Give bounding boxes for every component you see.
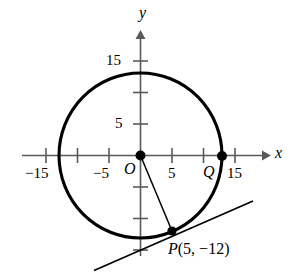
x-tick-label-neg15: −15 xyxy=(25,166,48,181)
y-tick-label-5: 5 xyxy=(115,116,123,131)
x-tick-label-neg5: −5 xyxy=(93,166,109,181)
point-label-Q: Q xyxy=(203,164,215,180)
y-axis-label: y xyxy=(139,5,146,21)
point-label-P: P(5, −12) xyxy=(168,241,229,257)
point-label-P-coords: (5, −12) xyxy=(178,240,230,257)
figure-canvas: x y 15 5 −15 −5 5 15 O Q P(5, −12) xyxy=(0,0,297,279)
point-dot-P xyxy=(167,226,176,235)
figure-graphic xyxy=(0,0,297,279)
y-axis-arrowhead xyxy=(136,30,146,39)
y-tick-label-15: 15 xyxy=(106,53,121,68)
point-dot-origin xyxy=(136,151,146,161)
x-tick-label-5: 5 xyxy=(168,166,176,181)
point-label-P-name: P xyxy=(168,240,178,257)
x-axis-label: x xyxy=(275,145,282,161)
x-axis-arrowhead xyxy=(262,151,271,161)
point-dot-Q xyxy=(217,151,227,161)
x-tick-label-15: 15 xyxy=(227,166,242,181)
origin-label: O xyxy=(124,161,136,177)
